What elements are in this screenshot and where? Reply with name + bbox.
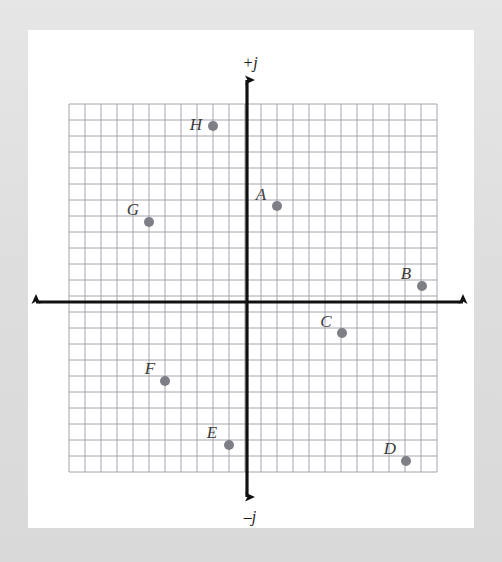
grid-lines: [69, 104, 437, 472]
data-point-e: [224, 440, 234, 450]
axis-label-negative-j: –j: [243, 508, 257, 526]
point-label-b: B: [401, 264, 412, 283]
axes-group: [36, 80, 463, 497]
data-point-g: [144, 217, 154, 227]
point-label-d: D: [383, 439, 397, 458]
point-label-f: F: [144, 359, 156, 378]
point-label-a: A: [255, 185, 267, 204]
point-label-g: G: [127, 200, 139, 219]
point-label-c: C: [320, 312, 332, 331]
data-point-b: [417, 281, 427, 291]
data-point-f: [160, 376, 170, 386]
data-point-h: [208, 121, 218, 131]
axis-label-positive-j: +j: [242, 54, 258, 72]
data-point-d: [401, 456, 411, 466]
data-point-c: [337, 328, 347, 338]
point-label-h: H: [189, 115, 204, 134]
complex-plane-figure: ABCDEFGH +j –j: [0, 0, 502, 562]
point-label-e: E: [206, 423, 218, 442]
data-point-a: [272, 201, 282, 211]
